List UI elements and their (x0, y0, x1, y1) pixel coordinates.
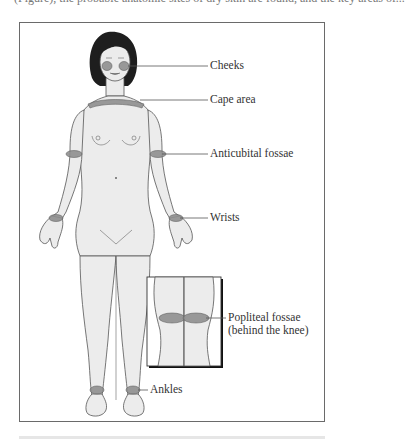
label-cape-area: Cape area (210, 93, 256, 106)
torso (76, 96, 154, 256)
right-foot (123, 394, 144, 416)
right-leg (116, 256, 150, 396)
right-arm (148, 110, 182, 222)
left-arm (50, 110, 84, 222)
label-popliteal-fossae: Popliteal fossae (228, 311, 301, 324)
cheek-right (119, 62, 129, 71)
label-cheeks: Cheeks (210, 59, 244, 72)
label-anticubital-fossae: Anticubital fossae (210, 147, 293, 160)
label-ankles: Ankles (150, 383, 183, 396)
ankle-left (90, 386, 104, 394)
popliteal-right (183, 313, 209, 323)
label-popliteal-note: (behind the knee) (228, 324, 308, 337)
cheek-left (102, 62, 112, 71)
label-wrists: Wrists (210, 211, 240, 224)
wrist-left (49, 215, 63, 222)
anticubital-left (66, 151, 82, 158)
ankle-right (126, 386, 140, 394)
left-leg (80, 256, 116, 396)
popliteal-left (159, 313, 185, 323)
left-foot (86, 394, 107, 416)
